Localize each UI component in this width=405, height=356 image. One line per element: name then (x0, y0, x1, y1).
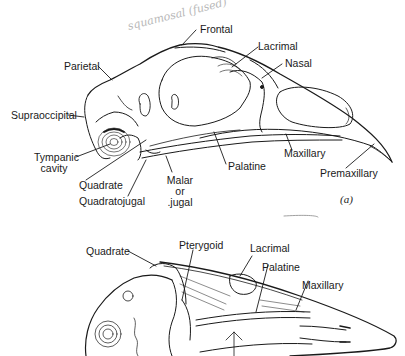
label-maxillary-a: Maxillary (284, 148, 325, 159)
label-lacrimal: Lacrimal (258, 41, 298, 52)
label-pterygoid: Pterygoid (179, 240, 223, 251)
label-nasal: Nasal (285, 58, 312, 69)
label-lacrimal-b: Lacrimal (250, 243, 290, 254)
label-quadrate-b: Quadrate (86, 246, 130, 257)
panel-label-a: (a) (340, 193, 353, 205)
label-maxillary-b: Maxillary (302, 280, 343, 291)
label-quadrate-a: Quadrate (79, 180, 123, 191)
label-supraoccipital: Supraoccipital (11, 110, 77, 121)
label-palatine-b: Palatine (262, 262, 300, 273)
label-frontal: Frontal (200, 24, 233, 35)
label-malar-line3: .jugal (167, 196, 192, 208)
label-parietal: Parietal (64, 61, 100, 72)
label-malar-jugal: Malar or .jugal (165, 175, 195, 208)
label-quadratojugal: Quadratojugal (79, 196, 145, 207)
label-premaxillary: Premaxillary (320, 168, 378, 179)
ventral-skull-drawing (86, 250, 397, 356)
label-tympanic-cavity: Tympanic cavity (34, 152, 74, 174)
label-tympanic-line2: cavity (41, 162, 68, 174)
label-palatine-a: Palatine (228, 161, 266, 172)
